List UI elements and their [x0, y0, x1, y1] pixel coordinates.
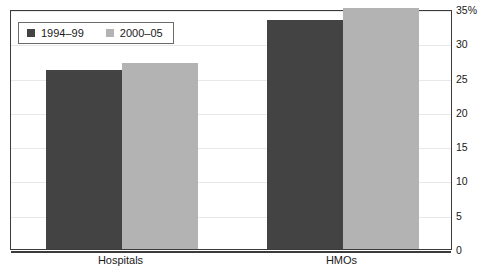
y-axis-tick-label: 25: [456, 74, 468, 85]
chart-legend: 1994–992000–05: [18, 22, 174, 44]
y-axis-tick-label: 15: [456, 142, 468, 153]
y-axis-tick-label: 20: [456, 108, 468, 119]
y-axis-tick-label: 10: [456, 176, 468, 187]
y-axis-tick-label: 30: [456, 39, 468, 50]
bar-hmos-1994–99: [267, 20, 343, 249]
legend-swatch-icon: [106, 29, 114, 37]
bar-hospitals-2000–05: [122, 63, 198, 250]
y-axis: 05101520253035%: [456, 10, 490, 250]
legend-label: 2000–05: [120, 27, 163, 39]
x-axis-tick-label-hmos: HMOs: [326, 254, 357, 266]
x-axis-tick-label-hospitals: Hospitals: [98, 254, 143, 266]
y-axis-tick-label: 5: [456, 211, 462, 222]
chart-plot-area: [11, 11, 451, 249]
bar-hmos-2000–05: [343, 8, 419, 249]
x-axis: HospitalsHMOs: [10, 254, 452, 272]
chart-plot-frame: [10, 10, 452, 250]
clipped-chart-title: [0, 0, 492, 3]
bar-hospitals-1994–99: [46, 70, 122, 249]
legend-entry: 1994–99: [27, 27, 84, 39]
axis-baseline: [11, 251, 451, 253]
legend-swatch-icon: [27, 29, 35, 37]
legend-entry: 2000–05: [106, 27, 163, 39]
y-axis-tick-label: 0: [456, 245, 462, 256]
y-axis-tick-label: 35%: [456, 5, 477, 16]
legend-label: 1994–99: [41, 27, 84, 39]
